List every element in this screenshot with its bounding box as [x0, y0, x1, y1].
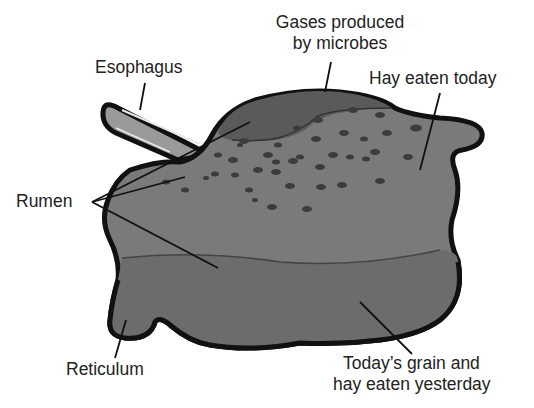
grain-label: Today’s grain and hay eaten yesterday: [333, 353, 491, 395]
grain-label-line2: hay eaten yesterday: [333, 374, 491, 395]
rumen-label: Rumen: [16, 191, 72, 212]
esophagus-label: Esophagus: [95, 57, 183, 78]
reticulum-label: Reticulum: [66, 359, 144, 380]
gases-label-line1: Gases produced: [255, 12, 425, 33]
grain-label-line1: Today’s grain and: [333, 353, 491, 374]
rumen-diagram: Gases produced by microbes Esophagus Hay…: [0, 0, 534, 408]
gases-label: Gases produced by microbes: [255, 12, 425, 54]
hay-today-label: Hay eaten today: [369, 68, 496, 89]
stomach-illustration: [0, 0, 534, 408]
gases-pointer: [325, 62, 331, 92]
esophagus-tube: [103, 105, 210, 160]
esophagus-pointer: [140, 83, 145, 110]
gases-label-line2: by microbes: [255, 33, 425, 54]
